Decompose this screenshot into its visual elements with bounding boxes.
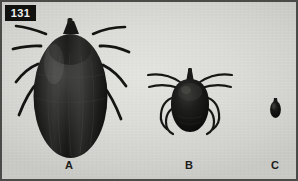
specimen-c-nymph-tick bbox=[266, 95, 286, 125]
specimen-c-body bbox=[270, 101, 281, 118]
specimen-a-engorged-tick bbox=[10, 16, 135, 161]
specimen-label-c: C bbox=[265, 159, 285, 171]
specimen-b-unengorged-tick bbox=[146, 64, 234, 142]
specimen-label-a: A bbox=[59, 159, 79, 171]
figure-plate: 131 bbox=[0, 0, 298, 181]
specimen-label-b: B bbox=[179, 159, 199, 171]
specimen-a-capitulum bbox=[63, 18, 79, 34]
plate-number-badge: 131 bbox=[5, 5, 36, 21]
